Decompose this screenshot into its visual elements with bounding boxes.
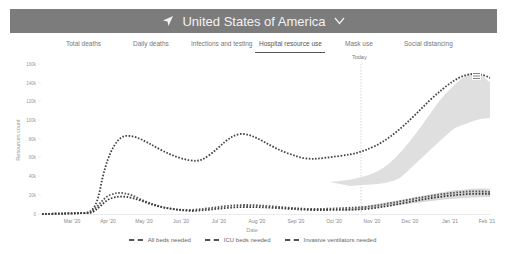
legend-swatch — [205, 239, 219, 241]
svg-text:Jul '20: Jul '20 — [212, 218, 227, 224]
tab-total-deaths[interactable]: Total deaths — [66, 40, 101, 47]
tab-social-distancing[interactable]: Social distancing — [404, 40, 453, 47]
svg-text:60k: 60k — [29, 155, 37, 160]
chevron-down-icon — [334, 17, 345, 25]
svg-text:Jan '21: Jan '21 — [442, 218, 458, 224]
x-axis: Mar '20 Apr '20 May '20 Jun '20 Jul '20 … — [64, 218, 496, 233]
svg-text:Feb '21: Feb '21 — [479, 218, 496, 224]
tab-bar: Total deaths Daily deaths Infections and… — [0, 36, 505, 56]
legend-label: Invasive ventilators needed — [304, 237, 377, 243]
all-beds-band — [330, 72, 490, 186]
hamburger-menu-icon[interactable] — [472, 72, 481, 80]
svg-text:Resources count: Resources count — [15, 119, 21, 161]
legend-item-icu-beds[interactable]: ICU beds needed — [205, 237, 271, 243]
country-selector[interactable]: United States of America — [10, 9, 497, 33]
svg-text:Sep '20: Sep '20 — [288, 218, 305, 224]
svg-text:Nov '20: Nov '20 — [364, 218, 381, 224]
svg-text:Date: Date — [246, 227, 258, 233]
svg-text:80k: 80k — [29, 137, 37, 142]
svg-text:20k: 20k — [29, 193, 37, 198]
svg-text:140k: 140k — [26, 81, 37, 86]
svg-text:Mar '20: Mar '20 — [64, 218, 81, 224]
tab-hospital-resource-use[interactable]: Hospital resource use — [259, 40, 322, 47]
svg-text:40k: 40k — [29, 174, 37, 179]
svg-text:120k: 120k — [26, 99, 37, 104]
location-arrow-icon — [162, 15, 174, 27]
tab-mask-use[interactable]: Mask use — [345, 40, 373, 47]
svg-text:Jun '20: Jun '20 — [173, 218, 189, 224]
svg-text:100k: 100k — [26, 118, 37, 123]
tab-infections-testing[interactable]: Infections and testing — [191, 40, 252, 47]
hospital-resource-chart: 0 20k 40k 60k 80k 100k 120k 140k 160k Re… — [0, 56, 505, 236]
svg-text:Oct '20: Oct '20 — [326, 218, 342, 224]
chart-legend: All beds needed ICU beds needed Invasive… — [0, 237, 505, 243]
tab-daily-deaths[interactable]: Daily deaths — [133, 40, 169, 47]
y-axis: 0 20k 40k 60k 80k 100k 120k 140k 160k Re… — [15, 62, 41, 217]
legend-swatch — [285, 239, 299, 241]
svg-text:0: 0 — [33, 212, 36, 217]
legend-label: ICU beds needed — [224, 237, 271, 243]
country-name: United States of America — [182, 14, 325, 29]
svg-text:Aug '20: Aug '20 — [249, 218, 266, 224]
legend-label: All beds needed — [148, 237, 191, 243]
svg-text:160k: 160k — [26, 62, 37, 67]
legend-swatch — [129, 239, 143, 241]
svg-text:Dec '20: Dec '20 — [402, 218, 419, 224]
svg-text:Apr '20: Apr '20 — [100, 218, 116, 224]
legend-item-invasive-ventilators[interactable]: Invasive ventilators needed — [285, 237, 377, 243]
svg-text:May '20: May '20 — [135, 218, 153, 224]
series-icu-beds — [42, 191, 490, 214]
active-tab-indicator — [255, 52, 325, 53]
legend-item-all-beds[interactable]: All beds needed — [129, 237, 191, 243]
